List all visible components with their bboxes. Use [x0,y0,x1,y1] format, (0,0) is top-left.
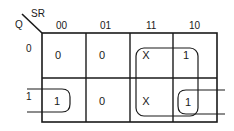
row-variable-label: Q [15,20,23,30]
cell-q1-sr10: 1 [178,97,198,108]
col-header-00: 00 [56,21,67,31]
cell-q0-sr01: 0 [92,50,112,61]
col-variable-label: SR [31,9,45,19]
cell-q1-sr00: 1 [47,96,67,107]
cell-q1-sr11: X [136,96,156,107]
row-header-1: 1 [26,92,32,102]
row-header-0: 0 [26,44,32,54]
col-header-11: 11 [146,21,156,31]
cell-q0-sr10: 1 [176,50,196,61]
cell-q0-sr11: X [136,50,156,61]
cell-q1-sr01: 0 [92,96,112,107]
cell-q0-sr00: 0 [48,50,68,61]
col-header-01: 01 [100,21,111,31]
col-header-10: 10 [189,21,200,31]
